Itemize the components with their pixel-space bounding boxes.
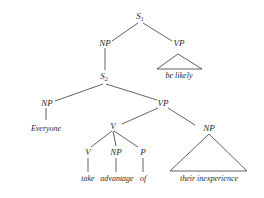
node-s2: S2: [100, 72, 108, 82]
edge-s2-vp: [106, 84, 157, 100]
node-vp-top: VP: [174, 39, 185, 48]
leaf-everyone: Everyone: [31, 125, 61, 133]
leaf-be-likely: be likely: [166, 72, 193, 80]
edge-vp-np: [168, 108, 195, 125]
triangle-vp-top: [157, 54, 202, 69]
leaf-take: take: [81, 175, 94, 183]
node-v-complex: V: [110, 122, 116, 131]
edge-s2-np: [55, 84, 103, 101]
edge-v-p: [114, 131, 138, 147]
edge-v-npadv: [113, 131, 116, 146]
leaf-their-inexperience: their inexperience: [180, 175, 238, 183]
node-np-adv: NP: [110, 148, 122, 157]
triangle-np-obj: [170, 134, 247, 171]
edge-vp-v: [122, 108, 158, 124]
leaf-of: of: [140, 175, 146, 183]
edge-v-vtake: [91, 131, 112, 147]
node-np-subj: NP: [41, 99, 53, 108]
node-v-take: V: [85, 148, 91, 157]
node-np-obj: NP: [203, 124, 215, 133]
edge-s1-vp: [143, 23, 172, 41]
edge-s1-np: [112, 23, 138, 41]
leaf-advantage: advantage: [100, 175, 133, 183]
node-vp-main: VP: [158, 99, 169, 108]
node-s1: S1: [136, 12, 144, 22]
syntax-tree-edges: [0, 0, 264, 198]
node-p-of: P: [140, 148, 146, 157]
node-np-top: NP: [99, 39, 111, 48]
